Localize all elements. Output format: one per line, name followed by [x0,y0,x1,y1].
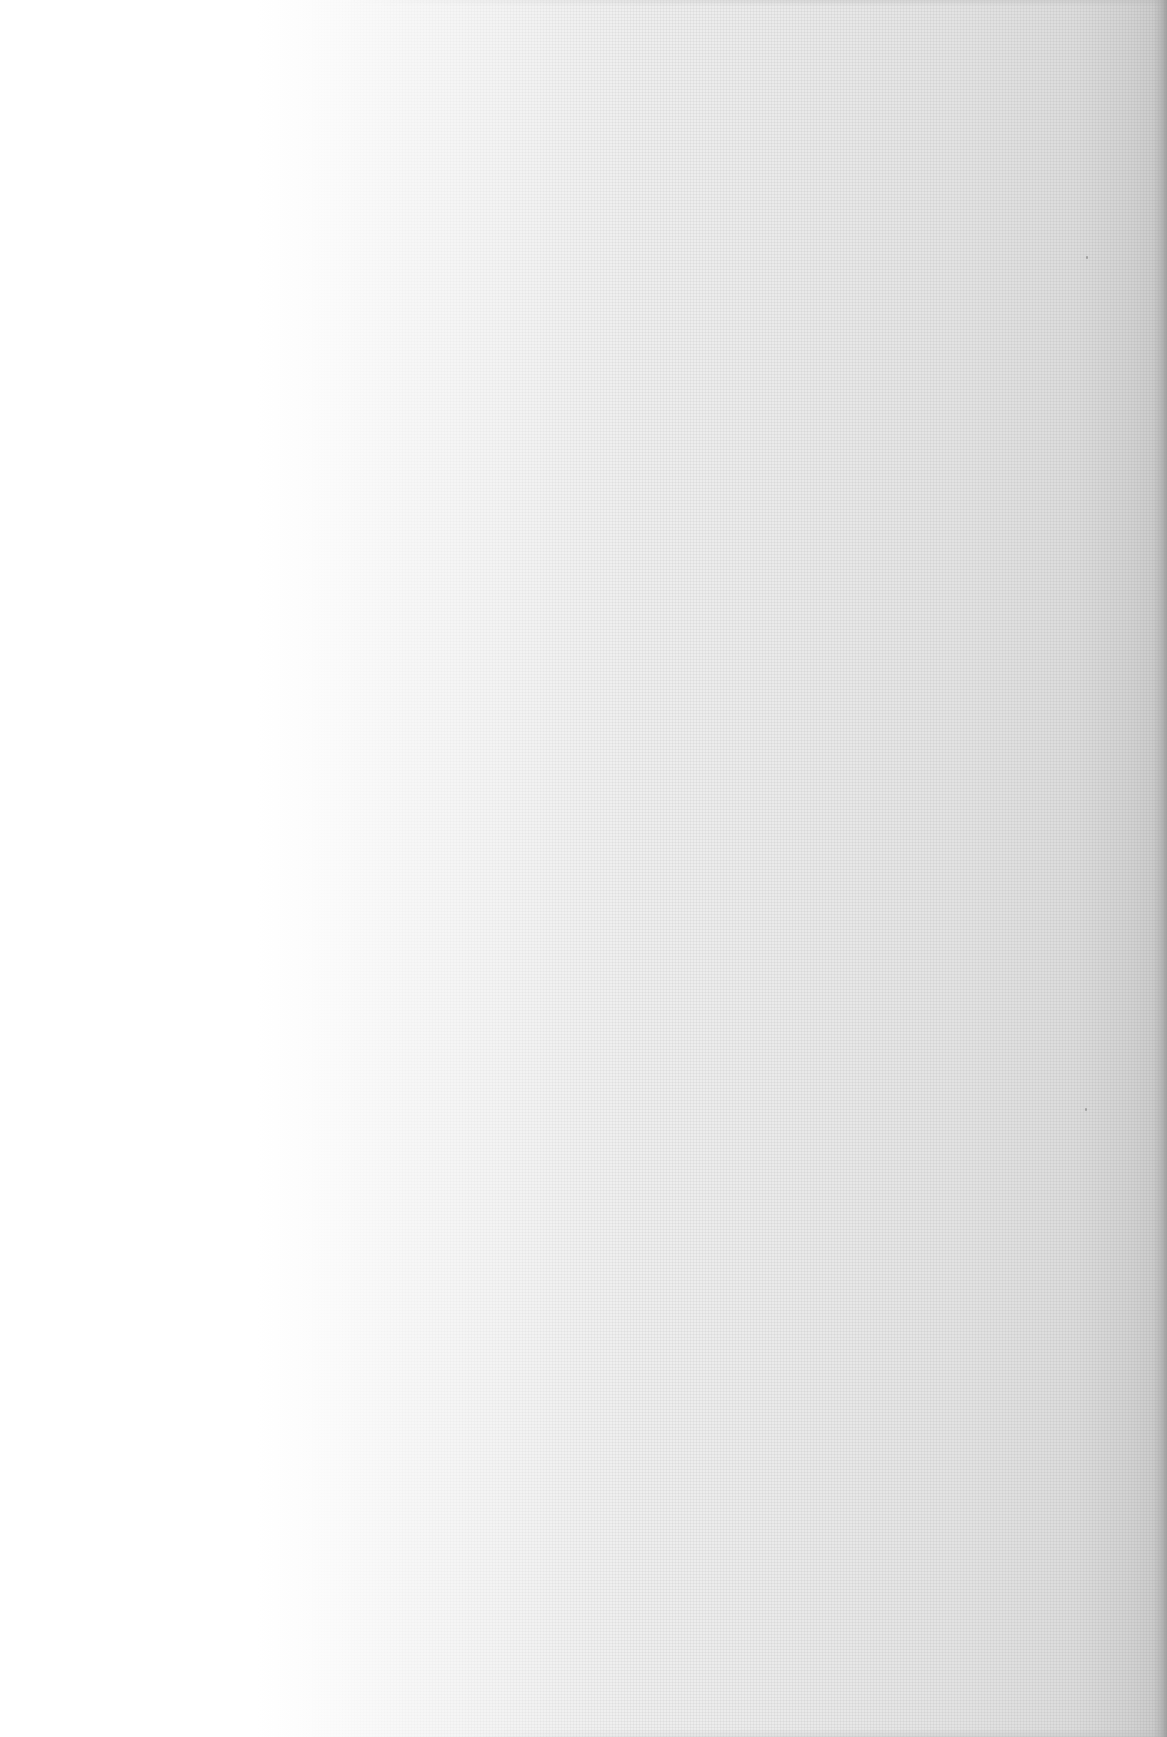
scan-speck [1086,256,1088,259]
scan-speck [1085,1108,1087,1111]
paper-texture [0,0,1167,1737]
blank-page [0,0,1167,1737]
page-bottom-edge [0,1729,1167,1737]
page-top-edge [0,0,1167,6]
page-right-edge [1153,0,1167,1737]
